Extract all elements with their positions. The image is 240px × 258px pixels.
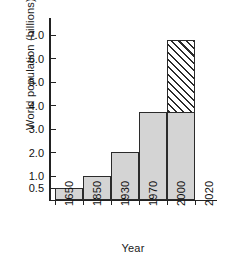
x-tick-mark-1850 (83, 200, 84, 205)
x-tick-label-1850: 1850 (91, 166, 103, 206)
x-tick-mark-1930 (111, 200, 112, 205)
x-tick-label-1970: 1970 (147, 166, 159, 206)
world-population-bar-chart: World population (billions) 7.0 6.0 5.0 … (0, 0, 240, 258)
x-tick-mark-1970 (139, 200, 140, 205)
x-axis-title: Year (49, 242, 217, 254)
x-tick-label-2020: 2020 (203, 166, 215, 206)
x-tick-label-1650: 1650 (63, 166, 75, 206)
bar-2000-projected-hatched (167, 40, 195, 114)
plot-area (0, 0, 240, 258)
x-tick-label-2000: 2000 (175, 166, 187, 206)
x-tick-mark-2020 (195, 200, 196, 205)
x-tick-mark-2000 (167, 200, 168, 205)
x-tick-mark-1650 (55, 200, 56, 205)
x-tick-label-1930: 1930 (119, 166, 131, 206)
